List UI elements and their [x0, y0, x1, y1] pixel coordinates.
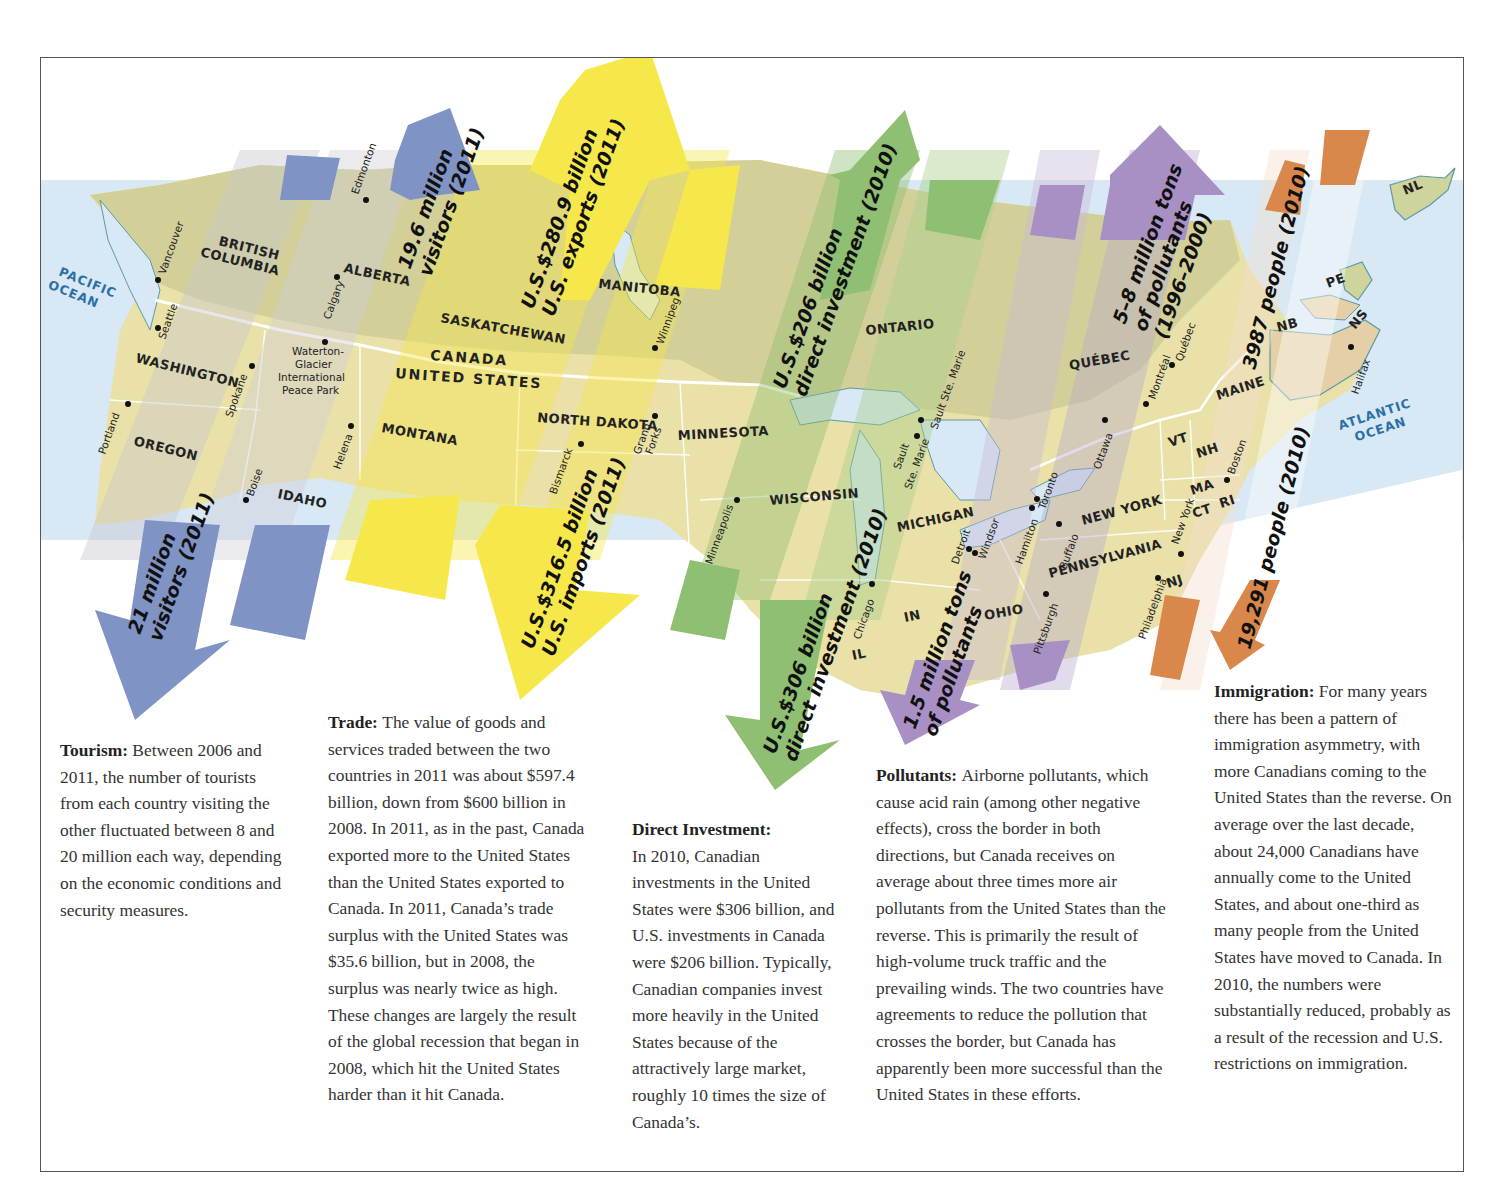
svg-text:Waterton-: Waterton-: [292, 345, 344, 357]
caption-pollutants: Pollutants: Airborne pollutants, which c…: [876, 762, 1168, 1108]
caption-tourism: Tourism: Between 2006 and 2011, the numb…: [60, 737, 285, 923]
caption-investment: Direct Investment: In 2010, Canadian inv…: [632, 816, 847, 1135]
caption-pollutants-body: Airborne pollutants, which cause acid ra…: [876, 765, 1166, 1104]
tourism-north-tail: [280, 155, 340, 200]
caption-immigration-body: For many years there has been a pattern …: [1214, 681, 1452, 1073]
svg-text:Peace Park: Peace Park: [282, 384, 340, 396]
caption-investment-heading: Direct Investment:: [632, 816, 847, 843]
caption-trade-body: The value of goods and services traded b…: [328, 712, 584, 1104]
svg-text:International: International: [278, 371, 345, 383]
caption-trade-heading: Trade:: [328, 712, 382, 732]
caption-investment-body: In 2010, Canadian investments in the Uni…: [632, 846, 834, 1132]
caption-immigration: Immigration: For many years there has be…: [1214, 678, 1454, 1077]
caption-pollutants-heading: Pollutants:: [876, 765, 962, 785]
caption-trade: Trade: The value of goods and services t…: [328, 709, 586, 1108]
caption-tourism-heading: Tourism:: [60, 740, 132, 760]
caption-immigration-heading: Immigration:: [1214, 681, 1319, 701]
caption-tourism-body: Between 2006 and 2011, the number of tou…: [60, 740, 282, 920]
svg-text:Glacier: Glacier: [295, 358, 333, 370]
investment-south-tail: [670, 560, 740, 640]
